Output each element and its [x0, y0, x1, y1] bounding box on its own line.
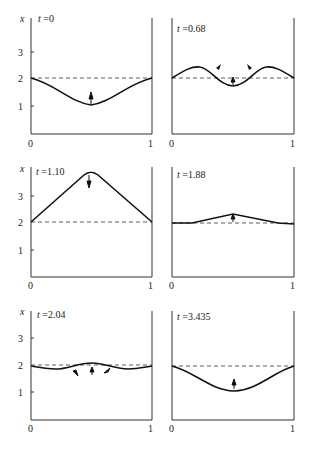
y-tick-1: 1 — [18, 101, 23, 112]
arrow-up-icon — [231, 214, 235, 222]
panel-title: t =0.68 — [177, 23, 205, 34]
svg-text:3: 3 — [18, 333, 23, 344]
y-axis-label: x — [19, 13, 25, 24]
svg-text:1: 1 — [290, 423, 295, 434]
svg-text:0: 0 — [169, 138, 174, 149]
panel-title: t =0 — [38, 13, 54, 24]
panel-t188: 0 1 t =1.88 — [169, 167, 295, 291]
x-tick-1: 1 — [148, 138, 153, 149]
svg-text:1: 1 — [148, 423, 153, 434]
arrow-up-icon — [89, 92, 93, 104]
arrow-up-icon — [90, 367, 94, 375]
svg-text:0: 0 — [169, 280, 174, 291]
panel-t204: x 3 2 1 0 1 t =2.04 — [18, 306, 153, 434]
panel-title: t =1.88 — [177, 169, 205, 180]
svg-text:2: 2 — [18, 360, 23, 371]
arrow-down-left-icon — [216, 64, 221, 70]
arrow-up-right-icon — [73, 370, 78, 376]
svg-text:1: 1 — [290, 280, 295, 291]
arrow-up-left-icon — [104, 368, 110, 373]
svg-text:1: 1 — [148, 280, 153, 291]
svg-text:x: x — [19, 306, 25, 317]
svg-text:1: 1 — [290, 138, 295, 149]
y-tick-2: 2 — [18, 73, 23, 84]
svg-text:1: 1 — [18, 387, 23, 398]
x-tick-0: 0 — [28, 138, 33, 149]
arrow-up-icon — [232, 379, 236, 389]
panel-title: t =2.04 — [37, 309, 65, 320]
arrow-down-right-icon — [247, 64, 252, 70]
panel-t110: x 3 2 1 0 1 t =1.10 — [18, 163, 153, 291]
svg-text:0: 0 — [28, 423, 33, 434]
panel-title: t =1.10 — [36, 166, 64, 177]
svg-text:3: 3 — [18, 191, 23, 202]
panel-t3435: 0 1 t =3.435 — [169, 311, 295, 434]
panel-t0: x 3 2 1 0 1 t =0 — [18, 13, 153, 149]
svg-text:0: 0 — [28, 280, 33, 291]
svg-text:0: 0 — [169, 423, 174, 434]
panel-title: t =3.435 — [177, 311, 210, 322]
svg-text:1: 1 — [18, 245, 23, 256]
svg-text:x: x — [19, 163, 25, 174]
panel-t068: 0 1 t =0.68 — [169, 18, 295, 149]
y-tick-3: 3 — [18, 47, 23, 58]
arrow-down-icon — [87, 175, 91, 188]
svg-text:2: 2 — [18, 217, 23, 228]
figure: x 3 2 1 0 1 t =0 0 1 t =0.68 x 3 2 1 0 1 — [0, 0, 313, 449]
